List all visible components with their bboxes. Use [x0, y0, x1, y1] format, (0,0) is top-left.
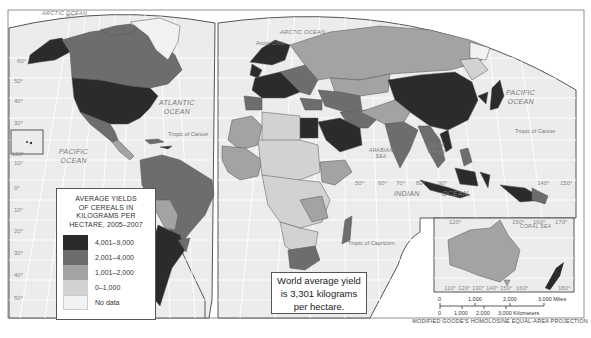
scale-bar: 0 1,000 2,000 3,000 Miles 0 1,000 2,000 … — [432, 297, 587, 319]
lon-label: 180° — [558, 285, 570, 291]
label-tropic-capricorn: Tropic of Capricorn — [348, 240, 395, 246]
legend-swatch — [63, 235, 88, 250]
lon-label: 50° — [355, 180, 364, 186]
legend-item: No data — [63, 295, 155, 310]
lon-label: 120° — [449, 219, 461, 225]
projection-label: MODIFIED GOODE'S HOMOLOSINE EQUAL-AREA P… — [0, 318, 588, 324]
ocean-label-indian: INDIAN OCEAN — [394, 189, 468, 198]
lon-label: 140° — [537, 180, 549, 186]
legend-title: AVERAGE YIELDS OF CEREALS IN KILOGRAMS P… — [57, 195, 155, 229]
lon-label: 80° — [416, 180, 425, 186]
lat-label: 10° — [14, 207, 23, 213]
legend-swatch — [63, 295, 88, 310]
label-arctic-circle: Arctic Circle — [256, 40, 285, 46]
lat-label: 30° — [14, 120, 23, 126]
legend-swatch — [63, 265, 88, 280]
lat-label: 0° — [14, 185, 20, 191]
legend-item: 2,001–4,000 — [63, 250, 155, 265]
legend-item: 1,001–2,000 — [63, 265, 155, 280]
lon-label: 70° — [396, 180, 405, 186]
lon-label: 150° — [512, 219, 524, 225]
lon-label: 160° — [516, 285, 528, 291]
ocean-label-bay-of-bengal: Bay ofBengal — [428, 142, 445, 154]
legend-item: 4,001–9,000 — [63, 235, 155, 250]
lat-label: 40° — [14, 272, 23, 278]
lon-label: 60° — [378, 180, 387, 186]
iberia — [244, 96, 262, 110]
label-tropic-cancer-west: Tropic of Cancer — [168, 131, 208, 137]
legend-item: 0–1,000 — [63, 280, 155, 295]
lat-label: 50° — [14, 78, 23, 84]
ocean-label-pacific-west: PACIFICOCEAN — [59, 147, 88, 165]
lon-label: 150° — [560, 180, 572, 186]
lon-label: 130° — [472, 285, 484, 291]
lon-label-hawaii: 160° — [12, 151, 24, 157]
lon-label: 120° — [458, 285, 470, 291]
map-legend: AVERAGE YIELDS OF CEREALS IN KILOGRAMS P… — [56, 188, 156, 320]
ocean-label-arabian-sea: ARABIANSEA — [369, 147, 393, 159]
legend-swatch — [63, 280, 88, 295]
lon-label: 90° — [438, 180, 447, 186]
lat-label: 40° — [14, 98, 23, 104]
lat-label: 20° — [14, 228, 23, 234]
lon-label: 170° — [555, 219, 567, 225]
lat-label: 10° — [14, 160, 23, 166]
legend-swatch — [63, 250, 88, 265]
ocean-label-pacific-east: PACIFICOCEAN — [506, 88, 535, 106]
lon-label: 160° — [533, 219, 545, 225]
lon-label: 140° — [486, 285, 498, 291]
lat-label: 60° — [17, 58, 26, 64]
label-tropic-cancer-east: Tropic of Cancer — [515, 128, 555, 134]
egypt — [300, 118, 318, 138]
ocean-label-arctic-west: ARCTIC OCEAN — [42, 9, 87, 18]
ocean-label-atlantic: ATLANTICOCEAN — [159, 98, 195, 116]
world-average-annotation: World average yield is 3,301 kilograms p… — [271, 272, 367, 314]
ocean-label-arctic-east: ARCTIC OCEAN — [280, 28, 325, 37]
lat-label: 30° — [14, 250, 23, 256]
lon-label: 110° — [444, 285, 456, 291]
lat-label-top: 80° — [66, 13, 75, 19]
lat-label: 50° — [14, 295, 23, 301]
lon-label: 150° — [500, 285, 512, 291]
